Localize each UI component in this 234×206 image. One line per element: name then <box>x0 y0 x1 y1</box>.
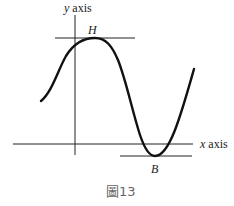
max-point-label: H <box>87 23 98 37</box>
diagram-canvas: yaxis xaxis H B 圖13 <box>0 0 234 206</box>
function-curve <box>41 38 194 156</box>
x-axis-label: xaxis <box>199 137 228 151</box>
y-axis-label: yaxis <box>63 1 92 15</box>
figure-caption: 圖13 <box>106 184 136 199</box>
min-point-label: B <box>151 162 159 176</box>
